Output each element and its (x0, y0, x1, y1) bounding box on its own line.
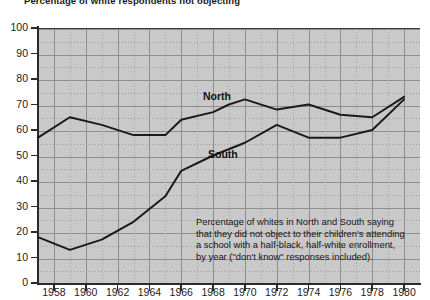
caption-line-4: by year ("don't know" responses included… (196, 251, 422, 263)
series-label-north: North (203, 90, 231, 102)
series-line-north (38, 97, 404, 138)
chart-container: Percentage of white respondents not obje… (0, 0, 430, 300)
caption-line-2: that they did not object to their childr… (196, 228, 422, 240)
caption-line-1: Percentage of whites in North and South … (196, 216, 422, 228)
chart-caption: Percentage of whites in North and South … (196, 216, 422, 262)
caption-line-3: a school with a half-black, half-white e… (196, 239, 422, 251)
series-label-south: South (208, 148, 238, 160)
